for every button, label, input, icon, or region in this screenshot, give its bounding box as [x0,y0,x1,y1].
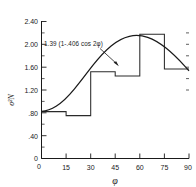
y-axis-title: σ²N [7,94,16,106]
y-tick-label: 1.60 [24,64,38,71]
y-tick-label: 2.40 [24,18,38,25]
y-tick-label: .40 [28,133,38,140]
fit-equation-label: 1.39 (1-.406 cos 2φ) [44,40,103,48]
chart-figure: 2.40 2.00 1.60 1.20 .80 .40 0 0 15 30 45… [0,0,196,187]
x-tick-label: 30 [87,164,95,171]
x-tick-label: 15 [62,164,70,171]
x-tick-label: 0 [37,163,41,170]
x-axis-title: φ [112,175,118,186]
x-tick-label: 75 [161,164,169,171]
x-tick-label: 90 [184,164,192,171]
x-tick-label: 45 [111,164,119,171]
y-tick-label: .80 [28,110,38,117]
y-tick-label: 2.00 [24,41,38,48]
y-tick-label: 0 [34,155,38,162]
x-tick-label: 60 [136,164,144,171]
y-tick-label: 1.20 [24,87,38,94]
